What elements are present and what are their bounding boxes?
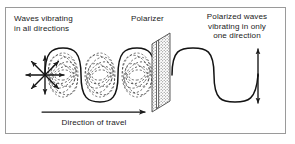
label-polarizer: Polarizer — [131, 14, 164, 24]
label-polarized-waves: Polarized waves vibrating in only one di… — [189, 12, 285, 41]
label-waves-vibrating-all-directions: Waves vibrating in all directions — [14, 14, 73, 33]
label-direction-of-travel: Direction of travel — [42, 118, 146, 128]
polarization-diagram: Waves vibrating in all directions Polari… — [0, 0, 295, 144]
